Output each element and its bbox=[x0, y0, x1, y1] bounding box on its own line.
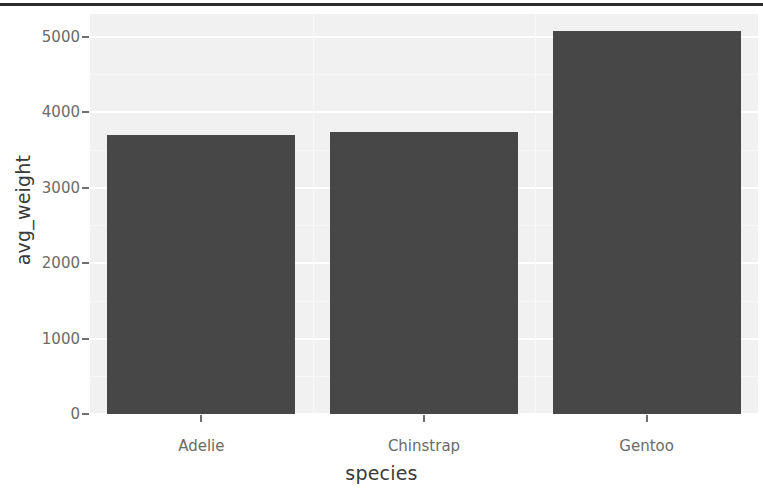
bar-chinstrap bbox=[330, 132, 518, 414]
bar-adelie bbox=[107, 135, 295, 414]
top-divider-rule bbox=[0, 3, 763, 6]
y-axis-tick-mark bbox=[82, 338, 89, 340]
y-axis-tick-label: 5000 bbox=[24, 28, 80, 46]
x-axis-tick-mark bbox=[646, 415, 648, 422]
y-axis-tick-labels: 010002000300040005000 bbox=[22, 0, 80, 493]
x-axis-tick-mark bbox=[423, 415, 425, 422]
x-axis-tick-label: Chinstrap bbox=[388, 437, 460, 455]
y-axis-tick-label: 2000 bbox=[24, 254, 80, 272]
x-gridline-minor bbox=[535, 14, 536, 414]
y-axis-tick-mark bbox=[82, 111, 89, 113]
x-axis-title: species bbox=[0, 462, 763, 484]
x-gridline-minor bbox=[313, 14, 314, 414]
x-axis-tick-label: Adelie bbox=[178, 437, 224, 455]
x-axis-tick-label: Gentoo bbox=[619, 437, 674, 455]
y-axis-tick-label: 4000 bbox=[24, 103, 80, 121]
y-axis-tick-mark bbox=[82, 36, 89, 38]
chart-figure: avg_weight 010002000300040005000 species… bbox=[0, 0, 763, 493]
y-axis-tick-label: 3000 bbox=[24, 179, 80, 197]
y-axis-tick-mark bbox=[82, 187, 89, 189]
bar-gentoo bbox=[553, 31, 741, 414]
x-axis-tick-mark bbox=[200, 415, 202, 422]
y-axis-tick-label: 0 bbox=[24, 405, 80, 423]
y-axis-tick-label: 1000 bbox=[24, 330, 80, 348]
y-axis-tick-mark bbox=[82, 413, 89, 415]
y-axis-tick-mark bbox=[82, 262, 89, 264]
plot-panel bbox=[90, 14, 758, 414]
